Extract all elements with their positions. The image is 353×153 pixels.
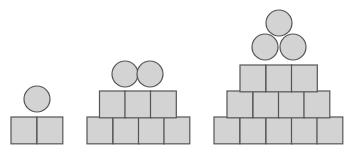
- square-block: [125, 91, 151, 118]
- square-block: [292, 117, 318, 144]
- square-block: [317, 117, 343, 144]
- figure-3: [214, 10, 343, 144]
- figure-2: [87, 61, 190, 144]
- square-block: [240, 117, 266, 144]
- circle-ball: [252, 34, 278, 60]
- square-block: [227, 91, 253, 118]
- square-block: [292, 65, 318, 92]
- circle-ball: [24, 86, 50, 112]
- figure-1: [11, 86, 63, 144]
- square-block: [164, 117, 190, 144]
- circle-ball: [137, 61, 163, 87]
- circle-ball: [280, 34, 306, 60]
- square-block: [113, 117, 139, 144]
- square-block: [139, 117, 165, 144]
- square-block: [87, 117, 113, 144]
- pyramid-pattern-diagram: [0, 0, 353, 153]
- square-block: [214, 117, 240, 144]
- square-block: [37, 117, 63, 144]
- square-block: [11, 117, 37, 144]
- square-block: [253, 91, 279, 118]
- square-block: [266, 65, 292, 92]
- square-block: [151, 91, 177, 118]
- square-block: [100, 91, 126, 118]
- square-block: [279, 91, 305, 118]
- circle-ball: [266, 10, 292, 36]
- circle-ball: [112, 61, 138, 87]
- square-block: [266, 117, 292, 144]
- square-block: [240, 65, 266, 92]
- square-block: [304, 91, 330, 118]
